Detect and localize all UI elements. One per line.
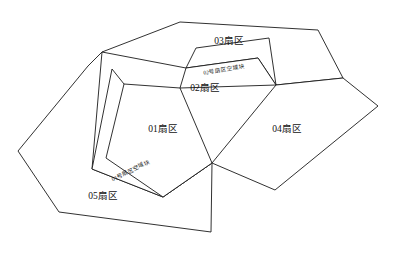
sector-diagram-canvas: 01扇区 02扇区 03扇区 04扇区 05扇区 01号扇区空域块 02号扇区空… [0,0,401,254]
label-sector-04: 04扇区 [272,123,302,134]
label-sector-01: 01扇区 [148,123,178,134]
label-sector-02: 02扇区 [190,82,220,93]
label-sector-05: 05扇区 [88,190,118,201]
label-sector-03: 03扇区 [214,35,244,46]
sector-map-svg: 01扇区 02扇区 03扇区 04扇区 05扇区 01号扇区空域块 02号扇区空… [0,0,401,254]
